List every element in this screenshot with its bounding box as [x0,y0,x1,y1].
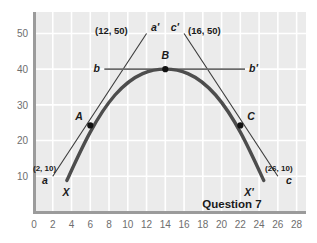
annotation-coord-16-50: (16, 50) [188,25,221,36]
x-tick-label: 10 [122,219,134,230]
chart-figure: A B C a a' b b' c c' X X' (12, 50) (16, … [0,0,317,243]
tangent-label-c: c [286,174,292,186]
data-point-B [162,66,168,72]
point-label-B: B [162,49,170,61]
curve-endpoint-label-X-prime: X' [243,186,254,198]
annotation-coord-2-10: (2, 10) [33,164,56,173]
tangent-label-b-prime: b' [249,62,258,74]
x-tick-label: 22 [235,219,247,230]
y-tick-label: 30 [17,100,29,111]
x-tick-label: 24 [254,219,266,230]
x-tick-label: 18 [197,219,209,230]
y-tick-label: 20 [17,135,29,146]
x-tick-labels: 0 2 4 6 8 10 12 14 16 18 20 22 24 26 28 [31,219,302,230]
x-tick-label: 8 [106,219,112,230]
x-tick-label: 26 [272,219,284,230]
x-tick-label: 0 [31,219,37,230]
x-tick-label: 20 [216,219,228,230]
y-tick-label: 50 [17,28,29,39]
x-tick-label: 16 [179,219,191,230]
data-point-A [87,122,93,128]
x-tick-label: 28 [291,219,303,230]
tangent-label-a-prime: a' [151,21,160,33]
tangent-label-c-prime: c' [171,21,180,33]
y-tick-label: 40 [17,64,29,75]
chart-caption: Question 7 [202,198,261,210]
x-tick-label: 6 [87,219,93,230]
tangent-label-b: b [94,62,101,74]
point-label-A: A [74,110,83,122]
x-tick-label: 2 [50,219,56,230]
x-tick-label: 14 [160,219,172,230]
x-tick-label: 12 [141,219,153,230]
y-tick-labels: 10 20 30 40 50 [17,28,29,182]
tangent-label-a: a [42,174,48,186]
curve-endpoint-label-X: X [61,186,70,198]
annotation-coord-26-10: (26, 10) [265,164,293,173]
annotation-coord-12-50: (12, 50) [95,25,128,36]
x-tick-label: 4 [69,219,75,230]
y-tick-label: 10 [17,171,29,182]
data-point-C [237,122,243,128]
point-label-C: C [247,110,255,122]
